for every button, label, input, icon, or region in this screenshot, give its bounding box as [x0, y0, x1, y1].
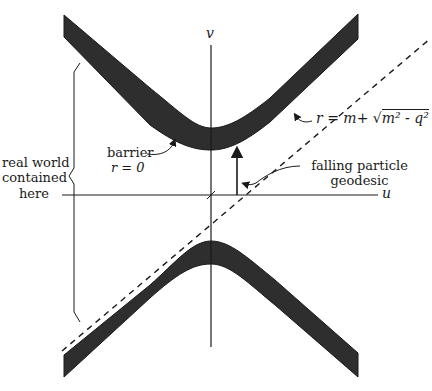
- eq-equals: =: [327, 110, 339, 126]
- eq-radicand: m² - q²: [382, 109, 429, 126]
- eq-m: m: [343, 110, 356, 126]
- barrier-r0-label: r = 0: [111, 160, 145, 175]
- eq-r: r: [316, 110, 323, 126]
- real-world-label-2: contained: [2, 170, 66, 185]
- geodesic-label: geodesic: [302, 173, 417, 188]
- barrier-label: barrier: [107, 145, 154, 160]
- real-world-brace: [69, 63, 80, 322]
- falling-particle-label: falling particle: [302, 158, 417, 173]
- u-axis-label: u: [382, 186, 391, 201]
- eq-plus: +: [357, 110, 369, 126]
- real-world-label-1: real world: [2, 155, 66, 170]
- horizon-equation: r = m+ √m² - q²: [316, 111, 429, 126]
- v-axis-label: v: [206, 26, 214, 41]
- real-world-label-3: here: [2, 186, 66, 201]
- horizon-pointer: [296, 116, 312, 122]
- geodesic-pointer: [245, 166, 300, 185]
- eq-sqrt: √: [373, 110, 382, 126]
